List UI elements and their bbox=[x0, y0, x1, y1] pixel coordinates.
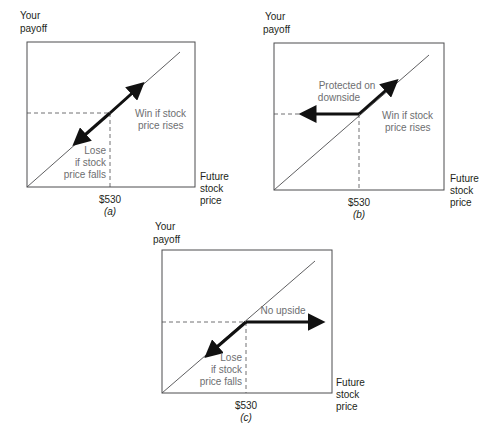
x-axis-label-line1: Future bbox=[200, 171, 229, 182]
y-axis-label-line2: payoff bbox=[20, 23, 47, 34]
panel-a: Your payoff Win if stock price rises Los… bbox=[20, 10, 229, 217]
panel-tag: (b) bbox=[353, 209, 365, 220]
x-axis-label-line2: stock bbox=[450, 185, 474, 196]
protected-annotation-line2: downside bbox=[318, 92, 361, 103]
x-axis-label-line3: price bbox=[450, 197, 472, 208]
strike-price-label: $530 bbox=[235, 400, 258, 411]
x-axis-label-line1: Future bbox=[336, 377, 365, 388]
win-annotation-line1: Win if stock bbox=[135, 108, 187, 119]
protected-annotation-line1: Protected on bbox=[319, 80, 376, 91]
no-upside-annotation: No upside bbox=[260, 305, 305, 316]
panel-tag: (a) bbox=[104, 206, 116, 217]
lose-annotation-line1: Lose bbox=[84, 145, 106, 156]
panel-tag: (c) bbox=[240, 412, 252, 423]
lose-annotation-line2: if stock bbox=[75, 157, 107, 168]
strike-price-label: $530 bbox=[99, 194, 122, 205]
win-annotation-line2: price rises bbox=[138, 120, 184, 131]
x-axis-label-line2: stock bbox=[336, 389, 360, 400]
x-axis-label-line1: Future bbox=[450, 173, 479, 184]
lose-annotation-line1: Lose bbox=[220, 352, 242, 363]
x-axis-label-line3: price bbox=[200, 195, 222, 206]
strike-price-label: $530 bbox=[348, 197, 371, 208]
lose-arrow-icon bbox=[78, 113, 110, 141]
panel-c: Your payoff No upside Lose if stock pric… bbox=[153, 221, 365, 423]
lose-annotation-line3: price falls bbox=[200, 376, 242, 387]
win-annotation-line2: price rises bbox=[385, 122, 431, 133]
lose-arrow-icon bbox=[210, 322, 246, 353]
y-axis-label-line1: Your bbox=[20, 10, 41, 21]
y-axis-label-line2: payoff bbox=[153, 234, 180, 245]
lose-annotation-line3: price falls bbox=[64, 169, 106, 180]
panel-b: Your payoff Protected on downside Win if… bbox=[263, 11, 479, 220]
win-annotation-line1: Win if stock bbox=[382, 110, 434, 121]
x-axis-label-line3: price bbox=[336, 401, 358, 412]
y-axis-label-line1: Your bbox=[155, 221, 176, 232]
y-axis-label-line1: Your bbox=[265, 11, 286, 22]
x-axis-label-line2: stock bbox=[200, 183, 224, 194]
lose-annotation-line2: if stock bbox=[211, 364, 243, 375]
y-axis-label-line2: payoff bbox=[263, 24, 290, 35]
payoff-diagrams: Your payoff Win if stock price rises Los… bbox=[0, 0, 487, 443]
